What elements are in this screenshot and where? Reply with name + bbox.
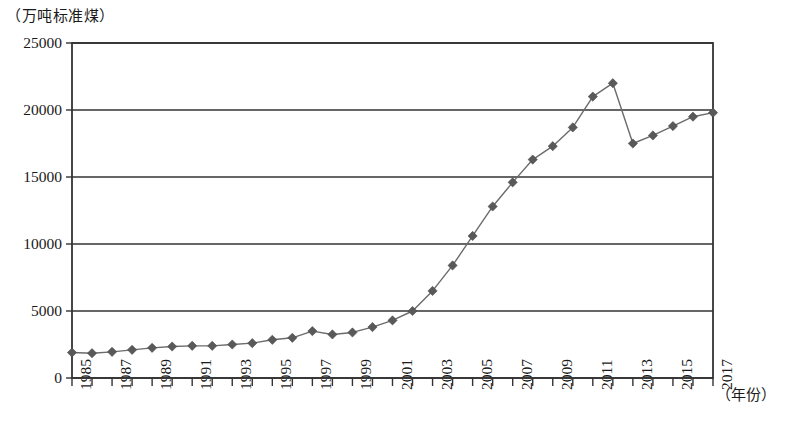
data-point-marker	[67, 348, 76, 357]
data-point-marker	[107, 347, 116, 356]
data-point-marker	[668, 121, 677, 130]
data-point-marker	[348, 328, 357, 337]
data-point-marker	[688, 112, 697, 121]
data-point-marker	[168, 342, 177, 351]
data-point-marker	[388, 316, 397, 325]
energy-consumption-line-chart: （万吨标准煤） （年份） 0500010000150002000025000 1…	[0, 0, 786, 425]
data-point-marker	[208, 341, 217, 350]
plot-area	[0, 0, 786, 425]
data-point-marker	[148, 343, 157, 352]
data-point-marker	[248, 339, 257, 348]
data-point-marker	[368, 322, 377, 331]
series-line	[72, 83, 713, 353]
data-point-marker	[608, 79, 617, 88]
data-point-marker	[628, 139, 637, 148]
data-point-marker	[648, 131, 657, 140]
series-markers	[67, 79, 717, 358]
data-point-marker	[228, 340, 237, 349]
data-point-marker	[588, 92, 597, 101]
data-point-marker	[268, 335, 277, 344]
data-point-marker	[308, 327, 317, 336]
data-point-marker	[127, 345, 136, 354]
data-point-marker	[188, 341, 197, 350]
data-point-marker	[87, 349, 96, 358]
data-point-marker	[468, 231, 477, 240]
x-axis-tick-marks	[72, 378, 713, 386]
data-point-marker	[328, 330, 337, 339]
data-point-marker	[288, 333, 297, 342]
